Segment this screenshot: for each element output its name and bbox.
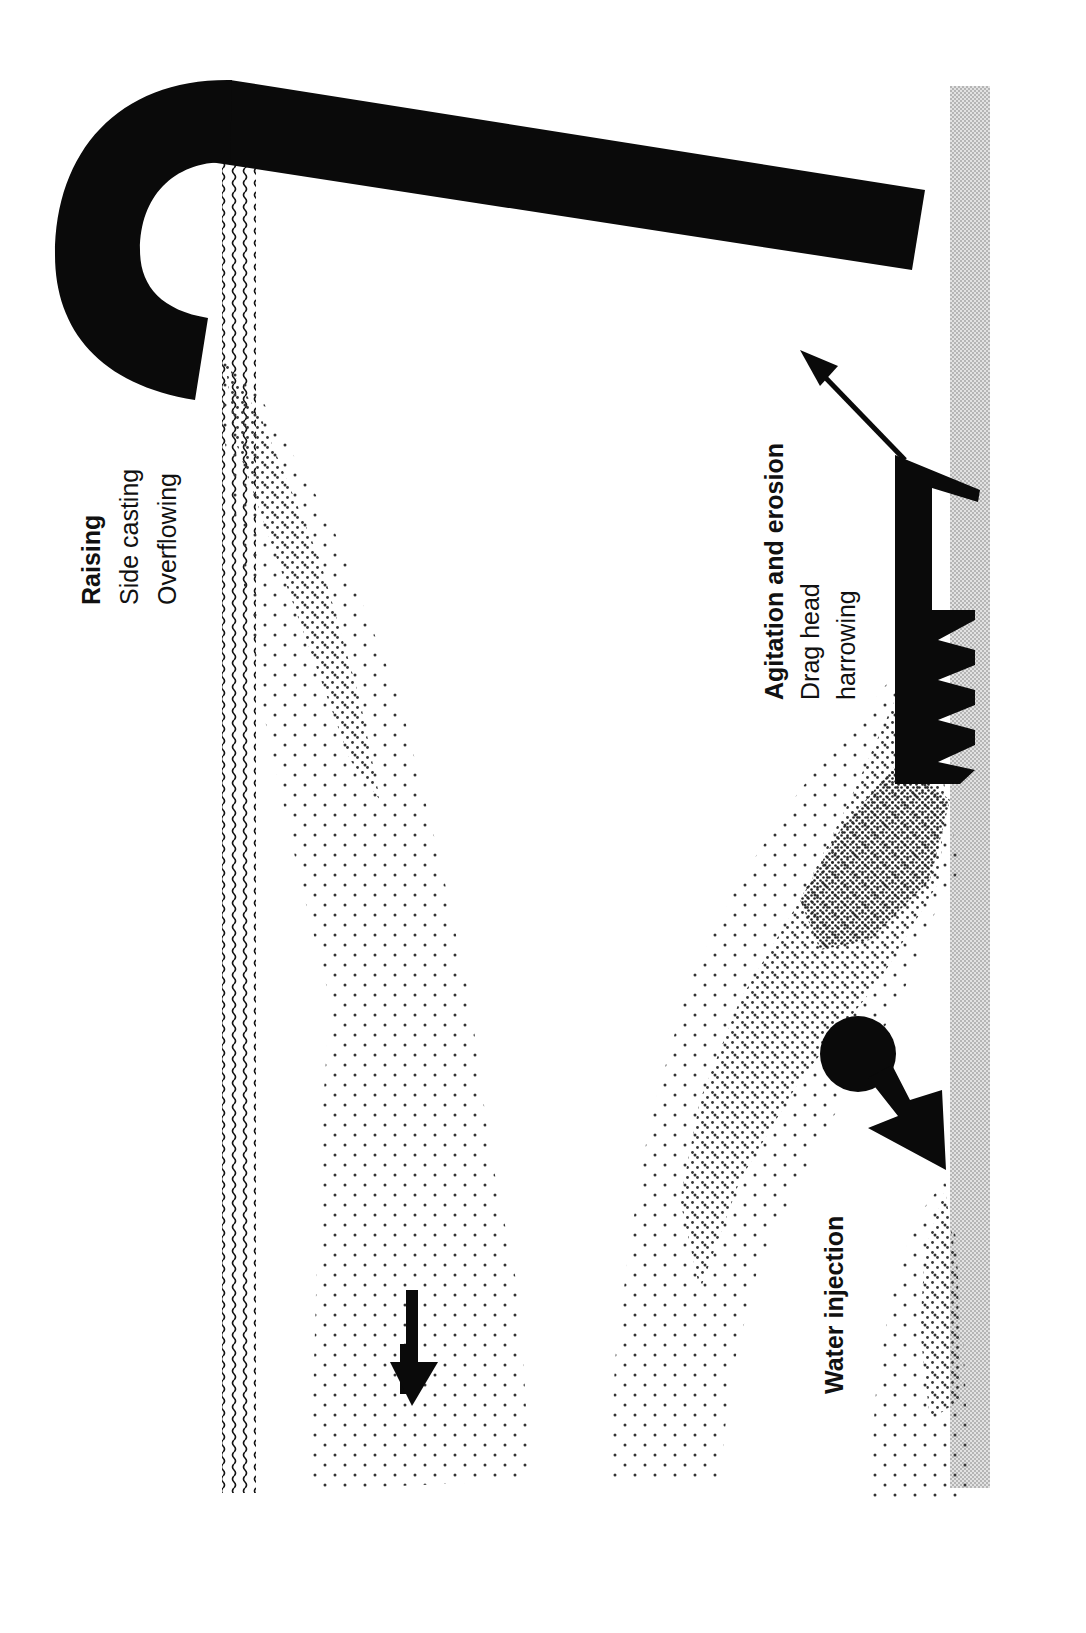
agitation-heading: Agitation and erosion: [760, 443, 788, 700]
raising-line1: Side casting: [115, 469, 143, 605]
agitation-line2: harrowing: [832, 590, 860, 700]
dredging-diagram: Raising Side casting Overflowing Agitati…: [0, 0, 1086, 1633]
discharge-pipe: [55, 80, 925, 400]
surface-plume: [222, 350, 530, 1490]
raising-line2: Overflowing: [153, 473, 181, 605]
agitation-line1: Drag head: [796, 583, 824, 700]
label-water-injection: Water injection: [820, 1216, 848, 1394]
dredge-movement-arrow: [800, 350, 905, 460]
water-injection-heading: Water injection: [820, 1216, 848, 1394]
raising-heading: Raising: [77, 515, 105, 605]
label-agitation: Agitation and erosion Drag head harrowin…: [760, 443, 860, 700]
label-raising: Raising Side casting Overflowing: [77, 469, 181, 605]
